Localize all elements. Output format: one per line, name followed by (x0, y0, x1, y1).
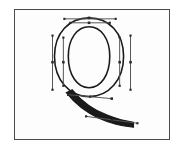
point-top-left-handle[interactable] (63, 18, 65, 20)
point-right-outer-top[interactable] (129, 35, 131, 37)
glyph-outline-group[interactable] (54, 18, 133, 127)
point-tail-lower-start[interactable] (85, 115, 87, 117)
point-left-outer-mid[interactable] (51, 61, 54, 64)
point-tail-lower-mid[interactable] (110, 119, 113, 122)
point-left-inner-top[interactable] (62, 36, 64, 38)
point-left-outer-bottom[interactable] (51, 89, 53, 91)
point-right-outer-mid[interactable] (129, 61, 132, 64)
point-tail-start[interactable] (67, 93, 70, 96)
control-handles-group[interactable] (53, 19, 138, 123)
glyph-canvas-frame[interactable] (14, 9, 170, 140)
point-inner-top-left[interactable] (69, 22, 71, 24)
point-right-inner-mid[interactable] (118, 61, 121, 64)
glyph-outline-svg[interactable] (15, 10, 169, 139)
point-top-right-handle[interactable] (115, 18, 117, 20)
point-right-outer-bottom[interactable] (129, 89, 131, 91)
point-left-outer-top[interactable] (51, 35, 53, 37)
point-inner-top-right[interactable] (109, 22, 111, 24)
point-tail-junction[interactable] (110, 97, 113, 100)
point-right-inner-top[interactable] (119, 36, 121, 38)
control-points-group[interactable] (51, 17, 138, 125)
contour-inner-counter[interactable] (68, 27, 109, 88)
glyph-editor-app (0, 0, 182, 151)
point-left-inner-mid[interactable] (62, 61, 65, 64)
point-right-inner-bottom[interactable] (119, 85, 121, 87)
point-top-apex[interactable] (88, 17, 91, 20)
point-inner-top-apex[interactable] (88, 22, 91, 25)
contour-outer-bowl[interactable] (54, 18, 123, 97)
point-tail-terminal[interactable] (136, 122, 138, 124)
point-tail-mid[interactable] (89, 96, 91, 98)
point-left-inner-bottom[interactable] (62, 85, 64, 87)
